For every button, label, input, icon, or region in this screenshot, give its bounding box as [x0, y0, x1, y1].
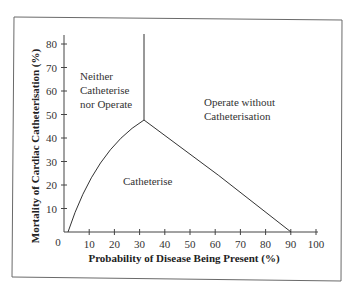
region-label-catheterise: Catheterise [123, 175, 173, 187]
y-tick-label: 40 [46, 132, 58, 144]
decision-chart: 1020304050607080 102030405060708090100 0… [0, 0, 352, 297]
origin-label: 0 [55, 236, 61, 248]
x-tick-label: 10 [84, 238, 96, 250]
x-tick-label: 30 [134, 238, 146, 250]
region-label-operate-without: Operate without Catheterisation [204, 96, 278, 122]
y-axis-title: Mortality of Cardiac Catheterisation (%) [29, 49, 42, 244]
y-tick-label: 50 [46, 109, 58, 121]
y-tick-label: 80 [46, 38, 58, 50]
x-tick-label: 100 [308, 238, 325, 250]
region-label-neither: Neither Catheterise nor Operate [80, 70, 132, 110]
x-tick-label: 60 [210, 238, 222, 250]
x-tick-label: 40 [159, 238, 171, 250]
x-tick-label: 80 [260, 238, 272, 250]
y-tick-label: 30 [46, 156, 58, 168]
x-axis-title: Probability of Disease Being Present (%) [88, 252, 279, 265]
y-tick-label: 60 [46, 85, 58, 97]
x-tick-label: 70 [235, 238, 247, 250]
x-tick-label: 20 [109, 238, 121, 250]
y-tick-label: 10 [46, 203, 58, 215]
y-tick-label: 20 [46, 179, 58, 191]
x-tick-label: 90 [285, 238, 297, 250]
x-tick-label: 50 [185, 238, 197, 250]
y-tick-label: 70 [46, 62, 58, 74]
